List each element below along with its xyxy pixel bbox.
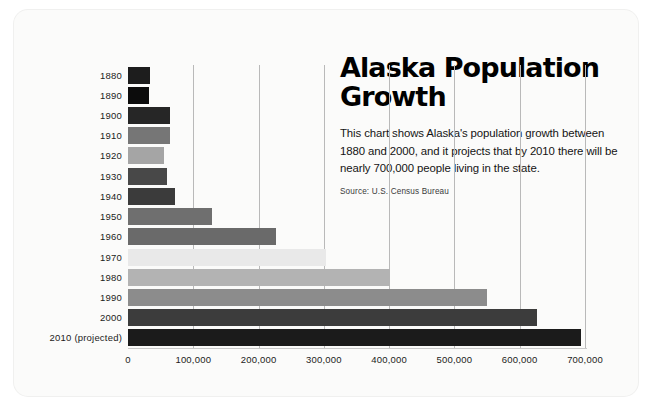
bar-row — [128, 208, 585, 225]
bar-row — [128, 67, 585, 84]
y-axis-tick-label: 2010 (projected) — [28, 332, 122, 343]
x-axis-tick-label: 400,000 — [371, 354, 407, 365]
bar-row — [128, 147, 585, 164]
bar-row — [128, 329, 585, 346]
bar-1920[interactable] — [128, 147, 164, 164]
x-axis-tick-label: 300,000 — [306, 354, 342, 365]
x-axis-tick-label: 500,000 — [437, 354, 473, 365]
y-axis-tick-label: 1950 — [28, 211, 122, 222]
y-axis-tick-label: 1920 — [28, 150, 122, 161]
x-axis-baseline — [128, 348, 587, 349]
bar-1960[interactable] — [128, 228, 276, 245]
x-axis-tick-label: 100,000 — [175, 354, 211, 365]
y-axis-tick-label: 1910 — [28, 130, 122, 141]
x-axis-labels: 0100,000200,000300,000400,000500,000600,… — [128, 354, 585, 370]
bar-1970[interactable] — [128, 249, 326, 266]
bar-1930[interactable] — [128, 168, 167, 185]
bar-1990[interactable] — [128, 289, 487, 306]
bar-row — [128, 87, 585, 104]
bar-1900[interactable] — [128, 107, 170, 124]
y-axis-tick-label: 1900 — [28, 110, 122, 121]
bar-row — [128, 228, 585, 245]
x-axis-tick-label: 200,000 — [241, 354, 277, 365]
x-axis-tick-label: 700,000 — [567, 354, 603, 365]
bar-1940[interactable] — [128, 188, 175, 205]
y-axis-tick-label: 1970 — [28, 252, 122, 263]
y-axis-tick-label: 1940 — [28, 191, 122, 202]
bar-row — [128, 269, 585, 286]
bar-row — [128, 188, 585, 205]
bar-1880[interactable] — [128, 67, 150, 84]
x-axis-tick-label: 600,000 — [502, 354, 538, 365]
bar-2010-projected-[interactable] — [128, 329, 581, 346]
bar-row — [128, 249, 585, 266]
bar-1980[interactable] — [128, 269, 390, 286]
bar-row — [128, 168, 585, 185]
x-axis-tick-label: 0 — [125, 354, 130, 365]
bar-2000[interactable] — [128, 309, 537, 326]
gridline — [585, 65, 586, 348]
y-axis-tick-label: 1980 — [28, 272, 122, 283]
bar-row — [128, 127, 585, 144]
y-axis-tick-label: 2000 — [28, 312, 122, 323]
bar-row — [128, 107, 585, 124]
y-axis-tick-label: 1960 — [28, 231, 122, 242]
bar-1950[interactable] — [128, 208, 212, 225]
bar-row — [128, 289, 585, 306]
y-axis-tick-label: 1930 — [28, 171, 122, 182]
bar-row — [128, 309, 585, 326]
y-axis-tick-label: 1890 — [28, 90, 122, 101]
plot-area — [128, 65, 585, 348]
y-axis-tick-label: 1880 — [28, 70, 122, 81]
chart-card: Alaska Population Growth This chart show… — [14, 10, 638, 396]
y-axis-tick-label: 1990 — [28, 292, 122, 303]
bar-1910[interactable] — [128, 127, 170, 144]
bar-1890[interactable] — [128, 87, 149, 104]
y-axis-labels: 1880189019001910192019301940195019601970… — [28, 65, 122, 348]
